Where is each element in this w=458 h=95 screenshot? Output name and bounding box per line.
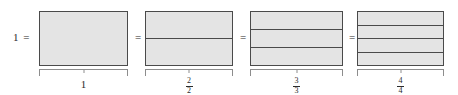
underbrace-center-tick [400,69,401,73]
fraction-numerator: 4 [399,77,403,86]
equals-sign: = [345,30,359,44]
group-caption: 1 [39,77,128,91]
bar-model-group: 33 [250,0,343,94]
underbrace-center-tick [83,69,84,73]
fraction-equivalence-diagram: 1 = 1223344 === [0,0,458,94]
rectangle-part [251,30,342,48]
underbrace [145,69,233,76]
bar-model-group: 1 [39,0,128,94]
rectangle-part [146,12,232,39]
rectangle-part [358,39,443,53]
rectangle-part [358,12,443,26]
rectangle-part [358,26,443,40]
equals-sign: = [131,30,145,44]
partitioned-rectangle [145,11,233,66]
underbrace-center-tick [296,69,297,73]
left-hand-side-label: 1 = [13,28,39,46]
bar-model-group: 22 [145,0,233,94]
whole-number-label: 1 [81,77,87,91]
group-caption: 22 [145,77,233,94]
equals-sign: = [236,30,250,44]
underbrace [250,69,343,76]
fraction-numerator: 2 [187,77,191,86]
underbrace [357,69,444,76]
rectangle-part [251,12,342,30]
rectangle-part [358,53,443,66]
fraction-denominator: 4 [399,87,403,95]
fraction-label: 33 [293,77,300,94]
partitioned-rectangle [357,11,444,66]
bar-model-group: 44 [357,0,444,94]
fraction-numerator: 3 [295,77,299,86]
fraction-denominator: 3 [295,87,299,95]
rectangle-part [146,39,232,65]
rectangle-part [251,48,342,65]
underbrace [39,69,128,76]
fraction-label: 22 [186,77,193,94]
partitioned-rectangle [39,11,128,66]
group-caption: 44 [357,77,444,94]
group-caption: 33 [250,77,343,94]
fraction-denominator: 2 [187,87,191,95]
rectangle-part [40,12,127,65]
fraction-label: 44 [397,77,404,94]
underbrace-center-tick [189,69,190,73]
partitioned-rectangle [250,11,343,66]
